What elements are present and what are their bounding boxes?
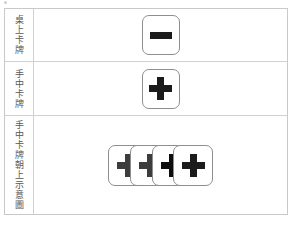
row-label-text: 手中卡牌朝上示意圖 [14, 120, 25, 210]
table-row: 桌上卡牌 [5, 9, 287, 62]
minus-icon [150, 32, 172, 39]
table-row: 手中卡牌 [5, 62, 287, 116]
figure-root: 桌上卡牌 手中卡牌 手中卡牌朝上示意圖 [0, 0, 296, 227]
scan-artifact-speck [4, 1, 7, 4]
row-content-hand-cards [34, 62, 287, 115]
plus-icon [182, 154, 205, 177]
card-minus [142, 15, 180, 55]
table-row: 手中卡牌朝上示意圖 [5, 116, 287, 214]
card-plus [142, 69, 180, 109]
card-layout-table: 桌上卡牌 手中卡牌 手中卡牌朝上示意圖 [4, 8, 288, 215]
row-label-cell-hand-faceup-diagram: 手中卡牌朝上示意圖 [5, 116, 34, 214]
row-label-cell-hand-cards: 手中卡牌 [5, 62, 34, 115]
row-content-table-cards [34, 9, 287, 61]
card-plus-front [173, 145, 213, 186]
row-label-text: 手中卡牌 [14, 69, 25, 109]
row-content-hand-faceup-diagram [34, 116, 287, 214]
plus-icon [149, 77, 172, 100]
card-fan [108, 142, 213, 188]
row-label-cell-table-cards: 桌上卡牌 [5, 9, 34, 61]
row-label-text: 桌上卡牌 [14, 15, 25, 55]
